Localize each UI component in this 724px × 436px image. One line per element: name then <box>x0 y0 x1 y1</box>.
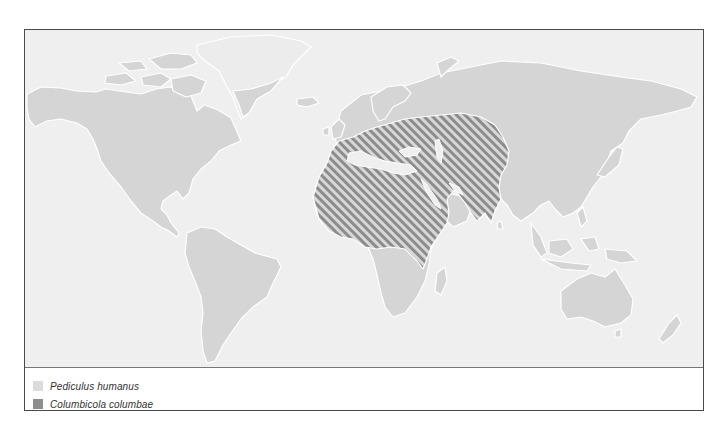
north-america <box>27 87 241 237</box>
south-america <box>185 227 281 363</box>
legend-item-columbicola-columbae: Columbicola columbae <box>33 398 153 410</box>
swatch-light-gray <box>33 381 43 391</box>
legend-item-pediculus-humanus: Pediculus humanus <box>33 380 139 392</box>
map-legend: Pediculus humanus Columbicola columbae <box>25 368 703 410</box>
legend-label: Columbicola columbae <box>50 399 153 410</box>
swatch-dark-gray <box>33 399 43 409</box>
world-map <box>25 30 703 368</box>
world-map-svg <box>25 30 703 367</box>
australia <box>561 269 633 327</box>
legend-label: Pediculus humanus <box>50 381 139 392</box>
greenland <box>197 35 311 119</box>
map-figure: Pediculus humanus Columbicola columbae <box>24 29 704 411</box>
